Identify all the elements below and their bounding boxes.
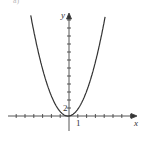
cropped-heading: a) — [13, 0, 19, 5]
parabola-curve — [31, 15, 105, 116]
axes — [8, 13, 137, 131]
x-tick-label-1: 1 — [76, 119, 81, 128]
y-tick-label-2: 2 — [63, 104, 68, 113]
x-axis-label: x — [134, 119, 138, 128]
plot-area — [0, 0, 146, 141]
y-axis-label: y — [61, 11, 65, 20]
